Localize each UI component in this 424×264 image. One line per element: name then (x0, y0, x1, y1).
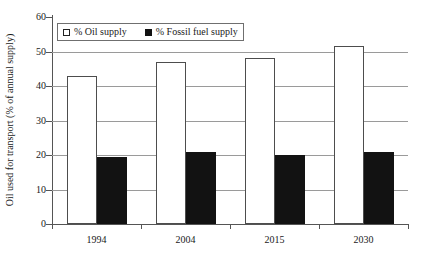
bar-fossil-fuel-supply (364, 152, 394, 224)
open-square-icon (63, 29, 70, 36)
x-tick-mark (52, 224, 53, 229)
y-tick-label: 50 (22, 47, 46, 57)
x-tick-label: 2015 (245, 234, 305, 246)
y-tick-label: 0 (22, 219, 46, 229)
bar-oil-supply (334, 46, 364, 224)
legend-entry: % Oil supply (63, 26, 127, 38)
chart-legend: % Oil supply% Fossil fuel supply (57, 23, 244, 41)
legend-label: % Fossil fuel supply (156, 26, 238, 38)
plot-area (52, 17, 408, 224)
y-tick-label: 60 (22, 12, 46, 22)
y-axis-title: Oil used for transport (% of annual supp… (2, 8, 18, 232)
y-tick-label: 30 (22, 116, 46, 126)
x-tick-mark (319, 224, 320, 229)
x-tick-label: 2004 (156, 234, 216, 246)
x-tick-mark (230, 224, 231, 229)
x-axis-line (50, 224, 408, 225)
bar-oil-supply (245, 58, 275, 224)
bar-oil-supply (156, 62, 186, 224)
bar-chart: Oil used for transport (% of annual supp… (0, 0, 424, 264)
filled-square-icon (145, 29, 152, 36)
x-tick-label: 1994 (67, 234, 127, 246)
bar-fossil-fuel-supply (186, 152, 216, 224)
bar-oil-supply (67, 76, 97, 224)
bar-fossil-fuel-supply (275, 155, 305, 224)
legend-entry: % Fossil fuel supply (145, 26, 238, 38)
x-tick-mark (408, 224, 409, 229)
bar-fossil-fuel-supply (97, 157, 127, 224)
y-tick-label: 20 (22, 150, 46, 160)
x-tick-label: 2030 (334, 234, 394, 246)
x-tick-mark (141, 224, 142, 229)
y-tick-label: 10 (22, 185, 46, 195)
legend-label: % Oil supply (74, 26, 127, 38)
y-tick-label: 40 (22, 81, 46, 91)
